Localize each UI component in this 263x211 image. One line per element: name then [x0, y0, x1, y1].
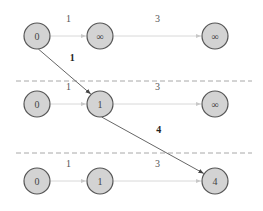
relaxation-weight-label: 1 [70, 52, 75, 63]
node-C-stage-3: 4 [202, 168, 228, 194]
node-distance-label: 0 [35, 99, 40, 110]
edge-weight-label: 1 [66, 158, 71, 169]
node-A-stage-3: 0 [24, 168, 50, 194]
edge-weight-label: 3 [155, 81, 160, 92]
node-distance-label: ∞ [211, 99, 218, 110]
node-distance-label: 1 [98, 99, 103, 110]
node-A-stage-2: 0 [24, 91, 50, 117]
edge-weight-label: 3 [155, 13, 160, 24]
node-distance-label: 4 [213, 176, 218, 187]
node-B-stage-1: ∞ [87, 23, 113, 49]
node-A-stage-1: 0 [24, 23, 50, 49]
node-C-stage-1: ∞ [202, 23, 228, 49]
node-B-stage-2: 1 [87, 91, 113, 117]
edge-weight-label: 3 [155, 158, 160, 169]
relaxation-diagram: 131313 14 0∞∞01∞014 [0, 0, 263, 211]
relaxation-weight-label: 4 [156, 124, 161, 135]
edge-weight-label: 1 [66, 13, 71, 24]
node-distance-label: 0 [35, 176, 40, 187]
node-distance-label: 0 [35, 31, 40, 42]
edge-weight-label: 1 [66, 81, 71, 92]
relaxation-arrow-2 [102, 117, 204, 173]
node-distance-label: ∞ [211, 31, 218, 42]
node-C-stage-2: ∞ [202, 91, 228, 117]
node-B-stage-3: 1 [87, 168, 113, 194]
node-distance-label: ∞ [96, 31, 103, 42]
relaxation-arrow-1 [38, 49, 90, 94]
node-distance-label: 1 [98, 176, 103, 187]
